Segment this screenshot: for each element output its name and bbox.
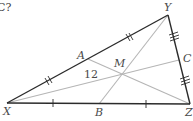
vertex-label-x: X <box>3 106 11 117</box>
vertex-label-z: Z <box>185 107 193 118</box>
midpoint-label-a: A <box>77 50 85 61</box>
tick-marks-yc <box>169 32 179 41</box>
vertex-label-y: Y <box>164 2 171 13</box>
midpoint-label-c: C <box>183 53 191 64</box>
side-xy <box>7 15 168 103</box>
segment-am-length: 12 <box>84 69 98 80</box>
triangle-diagram: C? X Y Z A B C M 12 <box>0 0 193 121</box>
centroid-label-m: M <box>114 58 125 69</box>
clipped-question-text: C? <box>0 2 11 13</box>
diagram-svg <box>0 0 193 121</box>
midpoint-label-b: B <box>95 107 103 118</box>
side-xz <box>7 103 190 104</box>
median-x-c <box>7 60 179 103</box>
median-z-a <box>88 59 190 104</box>
median-y-b <box>99 15 168 104</box>
tick-marks-cz <box>180 76 190 85</box>
